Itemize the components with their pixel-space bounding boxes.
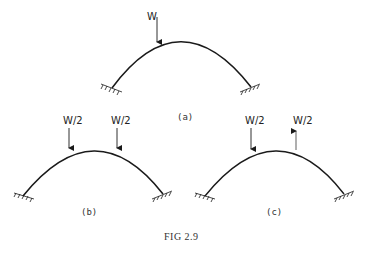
load-label: W/2	[111, 115, 131, 126]
panel-b: W/2 W/2 (b)	[14, 115, 172, 217]
load-label: W	[147, 11, 157, 22]
panel-label: (a)	[177, 112, 193, 122]
panel-a: W (a)	[101, 11, 260, 122]
arch-figure: W (a) W/2 W/2 (b)	[0, 0, 365, 258]
panel-c: W/2 W/2 (c)	[195, 115, 354, 217]
load-label: W/2	[245, 115, 265, 126]
fixed-support-right-icon	[334, 191, 354, 202]
fixed-support-left-icon	[101, 84, 122, 95]
arch-b	[23, 151, 163, 196]
arch-c	[205, 151, 344, 196]
load-label: W/2	[63, 115, 83, 126]
load-label: W/2	[293, 115, 313, 126]
panel-label: (b)	[81, 207, 97, 217]
arch-a	[112, 42, 251, 88]
panel-label: (c)	[266, 207, 282, 217]
fixed-support-left-icon	[195, 193, 215, 202]
figure-caption: FIG 2.9	[164, 231, 199, 242]
